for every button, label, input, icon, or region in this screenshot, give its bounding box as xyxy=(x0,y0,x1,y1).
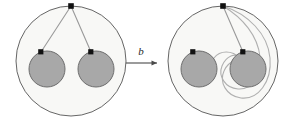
transformation-arrow: b xyxy=(126,45,157,65)
endpoint-marker-left xyxy=(38,49,43,54)
arrow-head-icon xyxy=(152,61,158,66)
endpoint-marker-right xyxy=(88,49,93,54)
right-panel xyxy=(168,3,278,116)
basepoint-vertex xyxy=(220,3,226,9)
puncture-left xyxy=(181,51,217,87)
endpoint-marker-left xyxy=(190,49,195,54)
left-panel xyxy=(16,3,126,116)
endpoint-marker-right xyxy=(240,49,245,54)
puncture-right xyxy=(78,51,114,87)
basepoint-vertex xyxy=(68,3,74,9)
puncture-left xyxy=(29,51,65,87)
arrow-label: b xyxy=(138,45,144,57)
puncture-right xyxy=(230,51,266,87)
braid-action-diagram: Braid generator action on arcs in a twic… xyxy=(0,0,284,123)
